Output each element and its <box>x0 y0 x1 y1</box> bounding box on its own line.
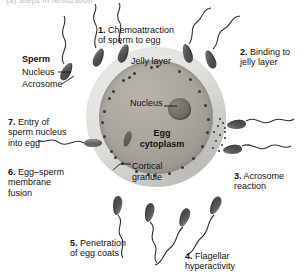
step-4-text: Flagellar hyperactivity <box>185 251 235 272</box>
step-1-number: 1. <box>98 25 106 35</box>
cortical-granule <box>192 157 195 160</box>
step-2-label: 2. Binding to jelly layer <box>240 36 290 68</box>
acrosomal-content-particle <box>215 140 217 142</box>
step-5-text: Penetration of egg coats <box>70 238 126 259</box>
step-6-label: 6. Egg–sperm membrane fusion <box>8 156 64 198</box>
acrosomal-content-particle <box>224 131 226 133</box>
step-7-label: 7. Entry of sperm nucleus into egg <box>8 106 67 148</box>
sperm-key-title: Sperm <box>22 54 50 65</box>
figure-title: (a) Steps in fertilization <box>6 0 93 5</box>
sperm-acrosome-leader-line <box>62 76 78 86</box>
cortical-granule <box>206 131 209 134</box>
acrosomal-content-particle <box>219 134 221 136</box>
acrosomal-content-particle <box>221 144 223 146</box>
step-7-text: Entry of sperm nucleus into egg <box>8 117 67 148</box>
step-6-text: Egg–sperm membrane fusion <box>8 167 64 198</box>
sperm-key-part-nucleus: Nucleus <box>22 67 55 78</box>
cortical-granule <box>181 166 184 169</box>
nucleus-leader-line <box>164 103 180 109</box>
step-2-number: 2. <box>240 47 248 57</box>
cortical-granule <box>168 172 171 175</box>
step-4-number: 4. <box>185 251 193 261</box>
acrosomal-content-particle <box>217 125 219 127</box>
step-5-number: 5. <box>70 238 78 248</box>
acrosomal-content-particle <box>219 118 221 120</box>
step-2-text: Binding to jelly layer <box>240 47 290 68</box>
step-7-number: 7. <box>8 117 16 127</box>
step-1-text: Chemoattraction of sperm to egg <box>98 25 174 46</box>
acrosomal-content-particle <box>213 131 215 133</box>
sperm-key-part-acrosome: Acrosome <box>22 79 63 90</box>
step-5-label: 5. Penetration of egg coats <box>70 227 126 259</box>
acrosomal-content-particle <box>224 137 226 139</box>
step-3-number: 3. <box>234 171 242 181</box>
step-1-label: 1. Chemoattraction of sperm to egg <box>98 14 174 46</box>
egg-cytoplasm-label: Egg cytoplasm <box>131 128 193 149</box>
step-6-number: 6. <box>8 167 16 177</box>
cortical-granule <box>103 135 106 138</box>
cortical-granule-leader-line <box>112 161 134 175</box>
fertilization-diagram: (a) Steps in fertilization <box>0 0 304 278</box>
step-3-text: Acrosome reaction <box>234 171 284 192</box>
cortical-granule <box>201 145 204 148</box>
sperm-tail <box>119 44 179 104</box>
acrosomal-content-particle <box>218 150 220 152</box>
step-3-label: 3. Acrosome reaction <box>234 160 284 192</box>
jelly-layer-label: Jelly layer <box>131 56 171 67</box>
cortical-granule-label: Cortical granule <box>132 161 163 182</box>
cortical-granule <box>207 118 210 121</box>
step-4-label: 4. Flagellar hyperactivity <box>185 240 235 272</box>
egg-nucleus-label: Nucleus <box>130 98 163 109</box>
acrosomal-content-particle <box>212 147 214 149</box>
acrosomal-content-particle <box>224 127 226 129</box>
acrosomal-content-particle <box>222 122 224 124</box>
